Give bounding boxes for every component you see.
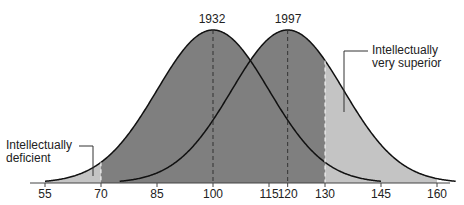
very-superior-region xyxy=(325,60,437,183)
x-tick-label-160: 160 xyxy=(427,187,447,201)
x-tick-label-130: 130 xyxy=(315,187,335,201)
x-tick-label-70: 70 xyxy=(94,187,107,201)
label-very-superior: Intellectually very superior xyxy=(372,44,441,70)
x-tick-label-115: 115 xyxy=(259,187,278,201)
iq-distribution-chart xyxy=(0,0,464,205)
label-1997: 1997 xyxy=(275,12,302,26)
x-tick-label-85: 85 xyxy=(150,187,163,201)
label-1932: 1932 xyxy=(199,12,226,26)
label-deficient: Intellectually deficient xyxy=(6,139,72,165)
x-tick-label-100: 100 xyxy=(203,187,223,201)
label-deficient-line2: deficient xyxy=(6,152,72,165)
x-tick-label-145: 145 xyxy=(371,187,391,201)
label-superior-line2: very superior xyxy=(372,57,441,70)
x-tick-label-55: 55 xyxy=(38,187,51,201)
x-tick-label-120: 120 xyxy=(278,187,298,201)
